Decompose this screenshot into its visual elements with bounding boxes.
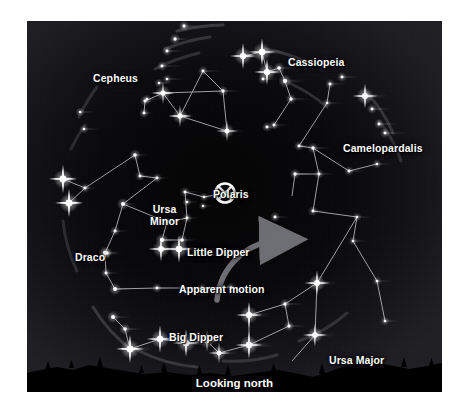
looking-north-caption: Looking north: [27, 377, 442, 389]
star-chart-figure: Cepheus Cassiopeia Camelopardalis Polari…: [0, 0, 466, 413]
sky-canvas: [27, 21, 442, 392]
polaris-marker-icon: [216, 184, 235, 203]
night-sky-panel: Cepheus Cassiopeia Camelopardalis Polari…: [27, 21, 442, 392]
sky-vignette: [27, 21, 442, 392]
